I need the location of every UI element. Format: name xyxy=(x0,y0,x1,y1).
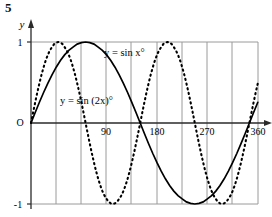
y-tick-label-1: 1 xyxy=(18,37,23,48)
curve-label-sin-x: y = sin x° xyxy=(104,47,145,58)
origin-label: O xyxy=(16,117,23,128)
y-axis-name: y xyxy=(19,18,25,30)
curve-label-sin-2x: y = sin (2x)° xyxy=(60,95,113,107)
figure-container: 5 xyxy=(0,0,272,217)
x-tick-label-180: 180 xyxy=(150,126,165,137)
x-tick-label-90: 90 xyxy=(101,126,111,137)
x-tick-label-360: 360 xyxy=(251,126,266,137)
x-tick-label-270: 270 xyxy=(200,126,215,137)
y-tick-label-minus-1: -1 xyxy=(14,199,22,210)
trig-graph-plot: y 1 O -1 90 180 270 360 y = sin x° y = s… xyxy=(0,0,272,217)
